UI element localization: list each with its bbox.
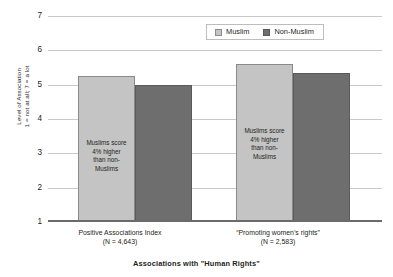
gridline-6 xyxy=(48,50,382,51)
annotation-line3: than non- xyxy=(238,144,292,153)
bar-group2-muslim: Muslims score 4% higher than non- Muslim… xyxy=(236,64,293,222)
bar-group1-muslim: Muslims score 4% higher than non- Muslim… xyxy=(78,76,135,222)
x-category-label-group1: Positive Associations Index (N = 4,643) xyxy=(48,228,192,247)
legend: Muslim Non-Muslim xyxy=(206,24,324,40)
x-category-title-group1: Positive Associations Index xyxy=(78,229,161,236)
annotation-line1: Muslims score xyxy=(80,139,134,148)
annotation-line2: 4% higher xyxy=(80,148,134,157)
y-tick-5: 5 xyxy=(28,81,42,89)
y-axis-tick-labels: 7 6 5 4 3 2 1 xyxy=(28,0,42,277)
legend-swatch-muslim-icon xyxy=(215,29,222,36)
annotation-line4: Muslims xyxy=(238,153,292,162)
y-tick-4: 4 xyxy=(28,115,42,123)
bar-group2-nonmuslim xyxy=(293,73,350,222)
bar-annotation-group1: Muslims score 4% higher than non- Muslim… xyxy=(80,139,134,173)
x-category-title-group2: “Promoting women’s rights” xyxy=(236,229,320,236)
bar-chart: Level of Association 1 = not at all; 7 =… xyxy=(0,0,393,277)
legend-label-muslim: Muslim xyxy=(226,28,249,36)
x-category-n-group1: (N = 4,643) xyxy=(48,237,192,246)
y-tick-3: 3 xyxy=(28,149,42,157)
x-axis-title: Associations with "Human Rights" xyxy=(0,259,393,268)
gridline-7 xyxy=(48,16,382,17)
annotation-line3: than non- xyxy=(80,156,134,165)
legend-item-nonmuslim[interactable]: Non-Muslim xyxy=(263,28,313,36)
y-axis-title-line1: Level of Association xyxy=(15,68,22,125)
annotation-line4: Muslims xyxy=(80,165,134,174)
y-tick-1: 1 xyxy=(28,218,42,226)
y-tick-7: 7 xyxy=(28,12,42,20)
annotation-line1: Muslims score xyxy=(238,127,292,136)
legend-item-muslim[interactable]: Muslim xyxy=(215,28,249,36)
legend-swatch-nonmuslim-icon xyxy=(263,29,270,36)
x-category-n-group2: (N = 2,583) xyxy=(206,237,350,246)
x-category-label-group2: “Promoting women’s rights” (N = 2,583) xyxy=(206,228,350,247)
x-axis-line xyxy=(48,220,382,222)
bar-annotation-group2: Muslims score 4% higher than non- Muslim… xyxy=(238,127,292,161)
y-tick-2: 2 xyxy=(28,184,42,192)
annotation-line2: 4% higher xyxy=(238,136,292,145)
y-tick-6: 6 xyxy=(28,46,42,54)
legend-label-nonmuslim: Non-Muslim xyxy=(274,28,313,36)
plot-area: Muslims score 4% higher than non- Muslim… xyxy=(48,16,382,222)
bar-group1-nonmuslim xyxy=(135,85,192,222)
